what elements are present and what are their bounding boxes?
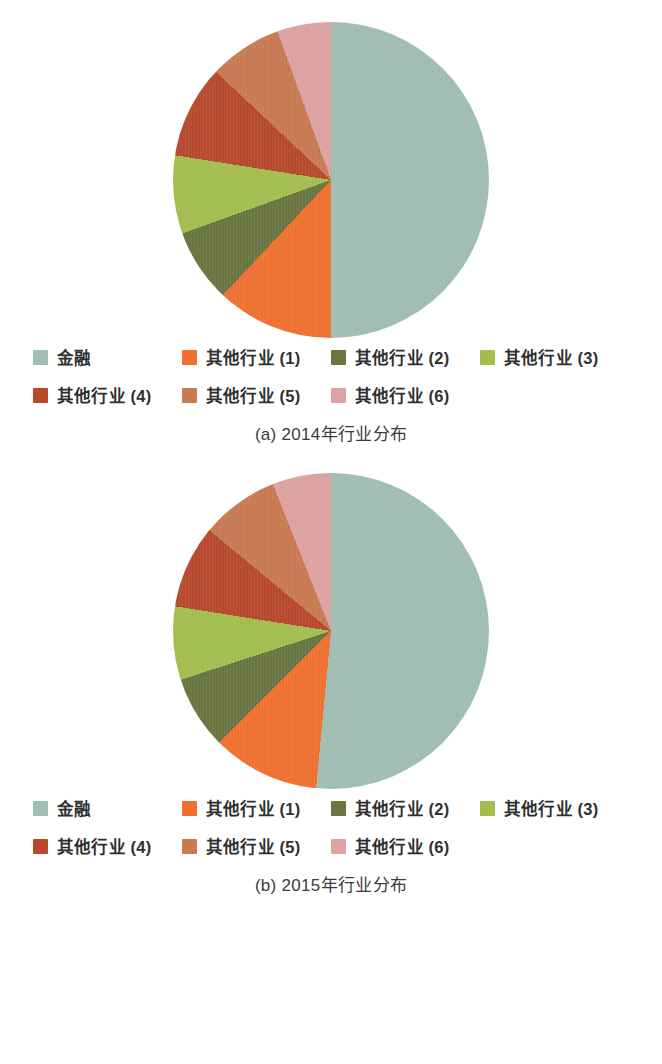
- legend-item-label: 金融: [57, 345, 91, 369]
- legend-swatch-icon: [480, 801, 495, 816]
- pie-chart-a-container: [0, 0, 662, 338]
- legend-item-label: 其他行业 (4): [57, 834, 151, 858]
- legend-item-label: 其他行业 (1): [206, 796, 300, 820]
- legend-item-label: 其他行业 (6): [355, 834, 449, 858]
- legend-item: 其他行业 (5): [182, 376, 331, 414]
- pie-chart-b: [173, 473, 489, 789]
- legend-swatch-icon: [331, 388, 346, 403]
- figure-panel-b: 金融其他行业 (1)其他行业 (2)其他行业 (3)其他行业 (4)其他行业 (…: [0, 473, 662, 896]
- legend-item-label: 其他行业 (3): [504, 796, 598, 820]
- legend-swatch-icon: [331, 839, 346, 854]
- legend-b: 金融其他行业 (1)其他行业 (2)其他行业 (3)其他行业 (4)其他行业 (…: [33, 789, 629, 865]
- legend-item-label: 其他行业 (1): [206, 345, 300, 369]
- legend-item: 其他行业 (2): [331, 338, 480, 376]
- legend-item: 金融: [33, 338, 182, 376]
- legend-item: 其他行业 (5): [182, 827, 331, 865]
- legend-item: 其他行业 (2): [331, 789, 480, 827]
- legend-item-label: 其他行业 (5): [206, 383, 300, 407]
- legend-item: 金融: [33, 789, 182, 827]
- legend-item: 其他行业 (1): [182, 338, 331, 376]
- legend-item: 其他行业 (4): [33, 376, 182, 414]
- legend-item: 其他行业 (6): [331, 827, 480, 865]
- legend-swatch-icon: [182, 350, 197, 365]
- legend-item-label: 其他行业 (2): [355, 796, 449, 820]
- legend-item: 其他行业 (1): [182, 789, 331, 827]
- legend-a: 金融其他行业 (1)其他行业 (2)其他行业 (3)其他行业 (4)其他行业 (…: [33, 338, 629, 414]
- legend-item-label: 其他行业 (2): [355, 345, 449, 369]
- pie-chart-b-container: [0, 473, 662, 789]
- legend-swatch-icon: [331, 801, 346, 816]
- legend-item: 其他行业 (3): [480, 338, 629, 376]
- legend-swatch-icon: [182, 388, 197, 403]
- legend-swatch-icon: [33, 350, 48, 365]
- legend-swatch-icon: [182, 801, 197, 816]
- legend-swatch-icon: [33, 801, 48, 816]
- panel-b-caption: (b) 2015年行业分布: [0, 871, 662, 896]
- legend-swatch-icon: [33, 388, 48, 403]
- legend-item: 其他行业 (6): [331, 376, 480, 414]
- legend-item-label: 其他行业 (6): [355, 383, 449, 407]
- legend-swatch-icon: [33, 839, 48, 854]
- legend-item-label: 其他行业 (5): [206, 834, 300, 858]
- legend-item: 其他行业 (3): [480, 789, 629, 827]
- legend-swatch-icon: [182, 839, 197, 854]
- pie-chart-a: [173, 22, 489, 338]
- legend-item: 其他行业 (4): [33, 827, 182, 865]
- legend-swatch-icon: [331, 350, 346, 365]
- figure-panel-a: 金融其他行业 (1)其他行业 (2)其他行业 (3)其他行业 (4)其他行业 (…: [0, 0, 662, 445]
- legend-item-label: 其他行业 (4): [57, 383, 151, 407]
- panel-a-caption: (a) 2014年行业分布: [0, 420, 662, 445]
- legend-item-label: 其他行业 (3): [504, 345, 598, 369]
- legend-swatch-icon: [480, 350, 495, 365]
- legend-item-label: 金融: [57, 796, 91, 820]
